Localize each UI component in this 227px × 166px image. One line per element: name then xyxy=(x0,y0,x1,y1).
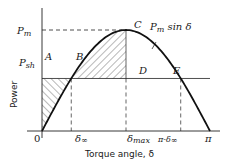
tick-delta-inf: δ∞ xyxy=(75,133,88,145)
tick-pi: π xyxy=(204,133,212,144)
point-a-label: A xyxy=(44,51,52,62)
power-angle-diagram: Pm Psh Power A B C D E Pm sin δ 0 δ∞ δma… xyxy=(0,0,227,166)
origin-label: 0 xyxy=(34,133,40,144)
x-axis-title: Torque angle, δ xyxy=(84,149,155,159)
psh-label: Psh xyxy=(18,57,35,70)
point-b-label: B xyxy=(75,51,83,62)
pm-label: Pm xyxy=(16,25,32,38)
curve-label: Pm sin δ xyxy=(149,21,191,34)
point-e-label: E xyxy=(172,65,181,76)
y-axis-title: Power xyxy=(9,80,19,108)
tick-pi-minus-delta-inf: π-δ∞ xyxy=(157,135,177,145)
point-c-label: C xyxy=(134,19,142,30)
point-d-label: D xyxy=(138,65,147,76)
tick-delta-max: δmax xyxy=(127,133,150,145)
